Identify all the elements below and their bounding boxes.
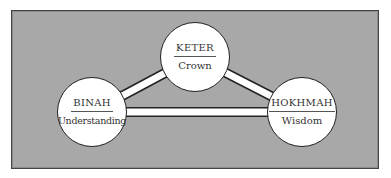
node-hokhmah-subtitle: Wisdom [282,112,322,127]
node-binah: BINAH Understanding [57,77,127,147]
node-keter-title: KETER [174,42,216,57]
node-binah-subtitle: Understanding [58,112,126,127]
node-keter: KETER Crown [160,22,230,92]
node-keter-subtitle: Crown [178,57,211,72]
node-binah-title: BINAH [71,97,113,112]
node-hokhmah-title: HOKHMAH [269,97,334,112]
node-hokhmah: HOKHMAH Wisdom [267,77,337,147]
